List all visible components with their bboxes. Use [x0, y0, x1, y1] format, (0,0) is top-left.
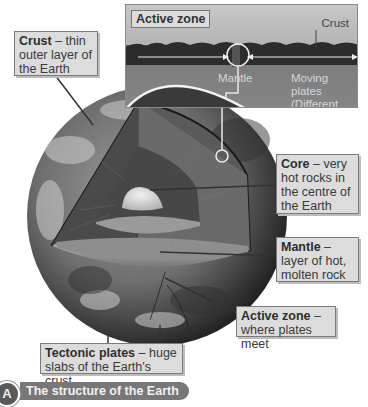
- core-label: Core – very hot rocks in the centre of t…: [276, 154, 359, 214]
- crust-label: Crust – thin outer layer of the Earth: [14, 31, 98, 76]
- active-zone-label: Active zone – where plates meet: [236, 306, 336, 337]
- figure-badge: A: [0, 381, 20, 407]
- tectonic-plates-label: Tectonic plates – huge slabs of the Eart…: [40, 343, 183, 374]
- inset-mantle-label: Mantle: [218, 72, 253, 84]
- inset-moving-plates-label: Moving plates (Different plates move in …: [291, 72, 358, 108]
- figure-caption: The structure of the Earth: [20, 382, 189, 400]
- mantle-label: Mantle – layer of hot, molten rock: [276, 237, 359, 282]
- active-zone-inset: Active zone Crust Mantle Moving plates (…: [125, 4, 358, 108]
